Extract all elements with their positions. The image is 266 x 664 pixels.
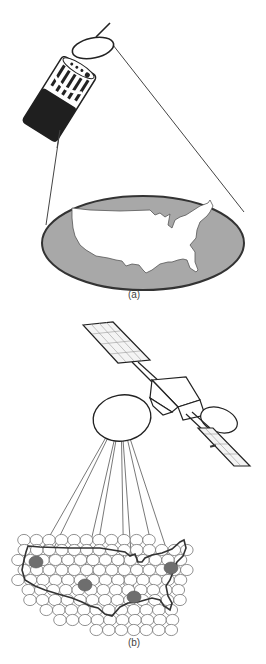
beam-cell xyxy=(78,604,91,615)
beam-cell xyxy=(40,604,53,615)
three-axis-satellite-body xyxy=(150,377,205,420)
beam-cell xyxy=(93,544,106,555)
panel-a-label: (a) xyxy=(128,289,140,300)
highlighted-cell xyxy=(29,556,43,568)
antenna-reflector-icon xyxy=(70,34,115,62)
beam-cell xyxy=(81,564,94,575)
beam-cell xyxy=(36,594,49,605)
antenna-reflector-icon xyxy=(89,390,154,445)
beam-cell xyxy=(116,614,129,625)
beam-cell xyxy=(62,574,75,585)
beam-cell xyxy=(68,534,81,545)
beam-cell xyxy=(110,584,123,595)
beam-cell xyxy=(111,594,124,605)
beam-cell xyxy=(90,624,103,635)
beam-cell xyxy=(128,624,141,635)
beam-cell xyxy=(55,534,68,545)
highlighted-cell xyxy=(78,579,92,591)
beam-cell xyxy=(81,544,94,555)
beam-cell xyxy=(140,604,153,615)
beam-cell xyxy=(118,534,131,545)
beam-cell xyxy=(93,534,106,545)
beam-cell xyxy=(129,614,142,625)
beam-cell xyxy=(80,534,93,545)
beam-cell xyxy=(54,614,67,625)
beam-cell xyxy=(18,534,31,545)
beam-cell xyxy=(86,594,99,605)
beam-cell xyxy=(65,604,78,615)
highlighted-cell xyxy=(127,591,141,603)
beam-cell xyxy=(49,594,62,605)
beam-cell xyxy=(99,574,112,585)
beam-cell xyxy=(165,624,178,635)
beam-cell xyxy=(131,564,144,575)
beam-cell xyxy=(153,624,166,635)
beam-cell xyxy=(105,534,118,545)
spinner-satellite-icon xyxy=(22,53,98,142)
beam-cell xyxy=(128,604,141,615)
beam-cell xyxy=(68,564,81,575)
beam-cell xyxy=(141,614,154,625)
figure-canvas xyxy=(0,0,266,664)
highlighted-cell xyxy=(164,562,178,574)
beam-cell xyxy=(143,534,156,545)
antenna-mast xyxy=(96,23,110,37)
beam-cell xyxy=(118,544,131,555)
beam-cell xyxy=(99,594,112,605)
solar-panel-upper xyxy=(83,322,160,385)
beam-cell xyxy=(172,584,185,595)
beam-cell xyxy=(140,624,153,635)
beam-cell xyxy=(181,564,194,575)
beam-cell xyxy=(43,534,56,545)
beam-cell xyxy=(166,614,179,625)
beam-cell xyxy=(53,604,66,615)
beam-cell xyxy=(43,544,56,555)
beam-cell xyxy=(174,594,187,605)
beam-cell xyxy=(22,584,35,595)
beam-cell xyxy=(18,564,31,575)
beam-cell xyxy=(124,574,137,585)
beam-cell xyxy=(93,564,106,575)
panel-b xyxy=(12,322,250,636)
beam-cell xyxy=(49,554,62,565)
beam-cell xyxy=(154,614,167,625)
panel-b-label: (b) xyxy=(128,637,140,648)
beam-cell xyxy=(24,594,37,605)
beam-cell xyxy=(43,564,56,575)
beam-cell xyxy=(74,554,87,565)
beam-cell xyxy=(30,534,43,545)
beam-cell xyxy=(131,544,144,555)
beam-cell xyxy=(87,554,100,565)
beam-cell xyxy=(62,554,75,565)
beam-cell xyxy=(91,614,104,625)
beam-cell xyxy=(137,574,150,585)
beam-cell xyxy=(60,584,73,595)
beam-cell xyxy=(112,554,125,565)
beam-cell xyxy=(181,544,194,555)
beam-cell xyxy=(130,534,143,545)
beam-cell xyxy=(174,574,187,585)
beam-cell xyxy=(112,574,125,585)
beam-cell xyxy=(56,544,69,555)
beam-edge-right xyxy=(113,45,244,212)
beam-cell xyxy=(97,584,110,595)
beam-cell xyxy=(56,564,69,575)
beam-cell xyxy=(147,584,160,595)
beam-cell xyxy=(115,624,128,635)
beam-cell xyxy=(106,564,119,575)
beam-cell xyxy=(79,614,92,625)
beam-cell xyxy=(12,574,25,585)
beam-cell xyxy=(99,554,112,565)
beam-cell xyxy=(143,564,156,575)
beam-cell xyxy=(49,574,62,585)
panel-a xyxy=(22,23,244,290)
beam-cell xyxy=(66,614,79,625)
beam-cell xyxy=(103,624,116,635)
beam-cell xyxy=(37,574,50,585)
beam-cell xyxy=(68,544,81,555)
beam-cell xyxy=(118,564,131,575)
beam-cell xyxy=(149,574,162,585)
